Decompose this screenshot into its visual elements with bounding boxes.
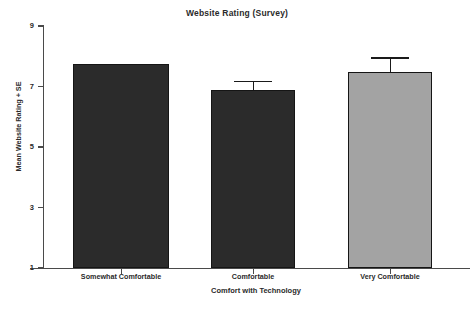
y-axis-tick-label: 1	[0, 263, 34, 272]
error-bar-cap	[371, 57, 409, 58]
bar	[348, 72, 432, 268]
category-label: Very Comfortable	[320, 272, 460, 281]
chart-title: Website Rating (Survey)	[0, 8, 474, 18]
plot-area	[44, 26, 468, 268]
x-axis-title: Comfort with Technology	[44, 286, 468, 295]
category-label: Comfortable	[183, 272, 323, 281]
y-axis-title: Mean Website Rating + SE	[14, 47, 23, 207]
bar	[211, 90, 295, 268]
error-bar-stem	[390, 57, 391, 72]
category-label: Somewhat Comfortable	[51, 272, 191, 281]
error-bar-cap	[234, 81, 272, 82]
chart-figure: Website Rating (Survey) 13579 Mean Websi…	[0, 0, 474, 310]
x-axis-line	[30, 268, 470, 269]
y-axis-tick-label: 9	[0, 21, 34, 30]
bar	[73, 64, 169, 268]
